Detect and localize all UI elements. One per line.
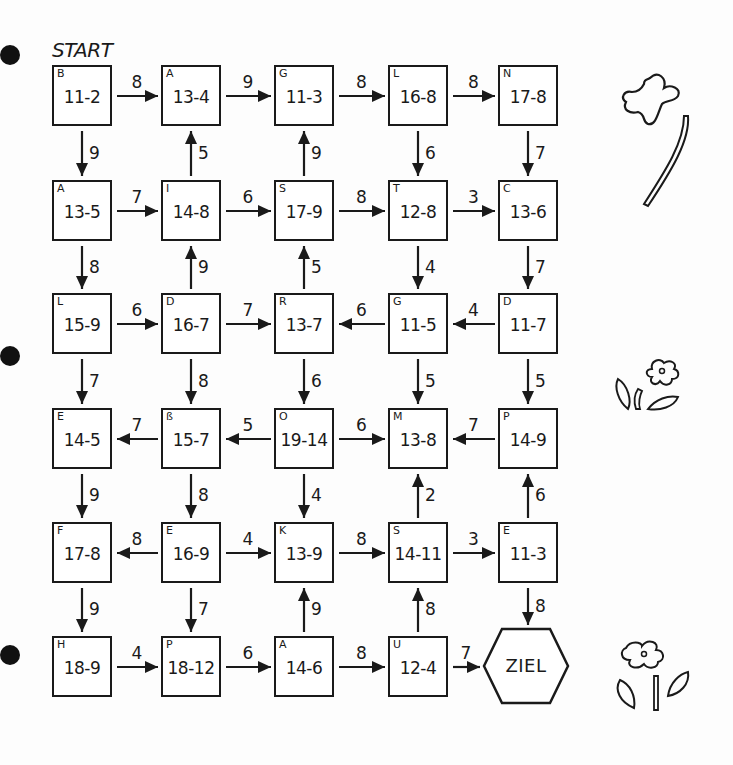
- arrow-step-number: 8: [198, 486, 209, 504]
- arrow-step-number: 6: [243, 188, 254, 206]
- arrow-step-number: 7: [461, 644, 472, 662]
- arrow-step-number: 8: [356, 188, 367, 206]
- arrow-step-number: 5: [535, 372, 546, 390]
- arrow-step-number: 7: [89, 372, 100, 390]
- arrow-step-number: 6: [535, 486, 546, 504]
- arrow-step-number: 9: [243, 73, 254, 91]
- arrow-step-number: 7: [243, 301, 254, 319]
- goal-label: ZIEL: [482, 655, 570, 676]
- arrow-step-number: 6: [243, 644, 254, 662]
- arrow-step-number: 7: [132, 188, 143, 206]
- arrow-step-number: 5: [198, 144, 209, 162]
- arrow-step-number: 3: [468, 530, 479, 548]
- arrow-step-number: 6: [425, 144, 436, 162]
- arrow-step-number: 9: [89, 486, 100, 504]
- small-flower-with-leaves-icon: [612, 355, 692, 420]
- arrow-step-number: 6: [132, 301, 143, 319]
- arrow-step-number: 4: [425, 258, 436, 276]
- arrow-step-number: 8: [356, 73, 367, 91]
- arrow-step-number: 9: [198, 258, 209, 276]
- arrow-step-number: 4: [311, 486, 322, 504]
- arrow-step-number: 7: [198, 600, 209, 618]
- arrow-step-number: 6: [356, 416, 367, 434]
- arrow-step-number: 7: [468, 416, 479, 434]
- arrow-step-number: 9: [89, 600, 100, 618]
- arrow-step-number: 5: [243, 416, 254, 434]
- arrow-step-number: 2: [425, 486, 436, 504]
- arrow-step-number: 4: [468, 301, 479, 319]
- arrow-step-number: 8: [132, 73, 143, 91]
- arrow-step-number: 6: [356, 301, 367, 319]
- arrow-step-number: 8: [425, 600, 436, 618]
- arrow-step-number: 8: [356, 644, 367, 662]
- arrow-step-number: 7: [535, 258, 546, 276]
- arrow-step-number: 9: [89, 144, 100, 162]
- arrow-step-number: 7: [132, 416, 143, 434]
- arrow-step-number: 6: [311, 372, 322, 390]
- arrow-step-number: 8: [132, 530, 143, 548]
- arrow-step-number: 7: [535, 144, 546, 162]
- arrow-step-number: 4: [243, 530, 254, 548]
- arrow-step-number: 8: [198, 372, 209, 390]
- arrow-step-number: 4: [132, 644, 143, 662]
- arrow-step-number: 5: [311, 258, 322, 276]
- arrow-step-number: 3: [468, 188, 479, 206]
- flower-with-stem-icon: [612, 70, 692, 210]
- arrow-step-number: 5: [425, 372, 436, 390]
- arrow-step-number: 8: [89, 258, 100, 276]
- arrow-step-number: 8: [468, 73, 479, 91]
- arrow-step-number: 8: [356, 530, 367, 548]
- arrow-step-number: 9: [311, 600, 322, 618]
- flower-with-leaves-icon: [612, 636, 697, 711]
- goal-hexagon: ZIEL: [482, 627, 570, 705]
- arrow-step-number: 9: [311, 144, 322, 162]
- arrow-step-number: 8: [535, 597, 546, 615]
